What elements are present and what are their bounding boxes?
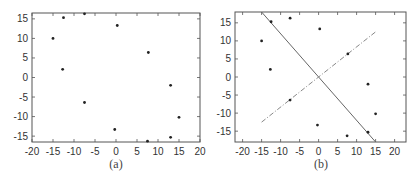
x-tick-label: 10	[351, 146, 363, 157]
x-tick-label: -20	[25, 146, 40, 157]
y-tick-label: 0	[22, 72, 28, 83]
y-tick-label: -10	[14, 111, 29, 122]
plot-frame	[235, 12, 406, 142]
data-point	[367, 131, 370, 134]
y-tick-label: 10	[220, 35, 232, 46]
x-tick-label: 15	[370, 146, 382, 157]
x-tick-label: 15	[173, 146, 185, 157]
y-tick-label: -10	[217, 108, 232, 119]
x-tick-label: -20	[235, 146, 250, 157]
data-point	[169, 84, 172, 87]
data-point	[52, 37, 55, 40]
data-point	[346, 52, 349, 55]
data-point	[374, 112, 377, 115]
y-tick-label: -15	[217, 126, 232, 137]
data-point	[178, 116, 181, 119]
y-tick-label: 5	[22, 52, 28, 63]
plot-frame	[32, 13, 200, 142]
x-tick-label: 5	[134, 146, 140, 157]
y-tick-label: 0	[225, 72, 231, 83]
y-tick-label: -5	[19, 92, 28, 103]
dash-dot-line	[262, 32, 376, 122]
x-tick-label: 5	[335, 146, 341, 157]
y-tick-label: 15	[17, 13, 29, 24]
y-tick-label: 15	[220, 17, 232, 28]
data-point	[62, 16, 65, 19]
x-tick-label: -10	[67, 146, 82, 157]
data-point	[260, 39, 263, 42]
x-tick-label: 0	[113, 146, 119, 157]
panel-a-scatter-plot: -20-15-10-505101520-15-10-5051015(a)	[14, 12, 206, 171]
data-point	[269, 68, 272, 71]
data-point	[270, 20, 273, 23]
data-point	[116, 24, 119, 27]
data-point	[318, 28, 321, 31]
data-point	[316, 124, 319, 127]
data-point	[113, 128, 116, 131]
x-tick-label: -15	[46, 146, 61, 157]
data-point	[146, 140, 149, 143]
x-tick-label: 20	[194, 146, 206, 157]
data-point	[61, 68, 64, 71]
data-point	[289, 99, 292, 102]
data-point	[83, 101, 86, 104]
panel-b-scatter-plot: -20-15-10-505101520-15-10-5051015(b)	[217, 12, 406, 171]
panel-caption: (a)	[109, 157, 122, 171]
x-tick-label: -5	[91, 146, 100, 157]
x-tick-label: 20	[389, 146, 401, 157]
y-tick-label: 5	[225, 53, 231, 64]
x-tick-label: 10	[152, 146, 164, 157]
data-point	[147, 51, 150, 54]
data-point	[169, 136, 172, 139]
data-point	[367, 83, 370, 86]
data-point	[289, 17, 292, 20]
y-tick-label: 10	[17, 33, 29, 44]
figure: -20-15-10-505101520-15-10-5051015(a) -20…	[0, 0, 416, 179]
x-tick-label: -15	[254, 146, 269, 157]
data-point	[83, 12, 86, 15]
y-tick-label: -15	[14, 131, 29, 142]
panel-caption: (b)	[314, 157, 328, 171]
data-point	[346, 134, 349, 137]
x-tick-label: 0	[316, 146, 322, 157]
y-tick-label: -5	[222, 90, 231, 101]
x-tick-label: -5	[295, 146, 304, 157]
x-tick-label: -10	[273, 146, 288, 157]
